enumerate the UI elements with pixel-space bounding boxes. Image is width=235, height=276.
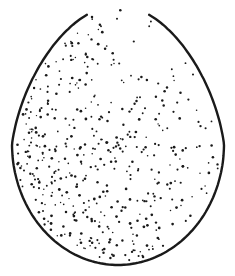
egg-drawing bbox=[0, 0, 235, 276]
egg-outline bbox=[12, 15, 224, 265]
stipple-dots bbox=[16, 9, 219, 261]
egg-illustration bbox=[0, 0, 235, 276]
